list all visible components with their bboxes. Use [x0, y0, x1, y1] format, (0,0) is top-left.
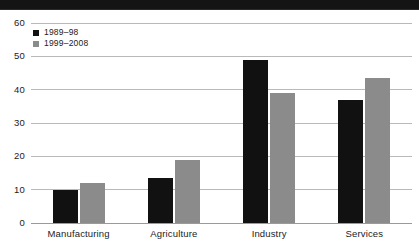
bar-services-1989–98: [338, 100, 363, 223]
bar-manufacturing-1989–98: [53, 190, 78, 223]
y-axis-tick-label: 10: [3, 185, 25, 195]
chart-figure: 0102030405060 ManufacturingAgricultureIn…: [0, 0, 419, 246]
y-axis-tick-label: 30: [3, 118, 25, 128]
y-axis-tick-label: 50: [3, 51, 25, 61]
bar-services-1999–2008: [365, 78, 390, 223]
legend-swatch-icon: [33, 41, 39, 47]
legend-label: 1989–98: [44, 28, 79, 37]
legend-label: 1999–2008: [44, 39, 88, 48]
y-axis-tick-label: 40: [3, 85, 25, 95]
legend-swatch-icon: [33, 30, 39, 36]
x-axis-category-label: Industry: [222, 229, 317, 239]
gridline-40: [31, 89, 412, 90]
x-axis-category-label: Agriculture: [126, 229, 221, 239]
page-header-rule: [0, 9, 419, 10]
page-header-banner: [0, 0, 419, 9]
gridline-60: [31, 23, 412, 24]
bar-industry-1989–98: [243, 60, 268, 223]
y-axis-tick-label: 20: [3, 151, 25, 161]
bar-agriculture-1989–98: [148, 178, 173, 223]
y-axis-tick-label: 60: [3, 18, 25, 28]
legend-item: 1999–2008: [33, 38, 88, 49]
x-axis-category-label: Services: [317, 229, 412, 239]
legend-item: 1989–98: [33, 27, 88, 38]
bar-manufacturing-1999–2008: [80, 183, 105, 223]
plot-area: [31, 23, 412, 223]
bar-industry-1999–2008: [270, 93, 295, 223]
gridline-50: [31, 56, 412, 57]
x-axis-category-label: Manufacturing: [31, 229, 126, 239]
chart-legend: 1989–981999–2008: [33, 27, 88, 49]
bar-agriculture-1999–2008: [175, 160, 200, 223]
y-axis-tick-label: 0: [3, 218, 25, 228]
